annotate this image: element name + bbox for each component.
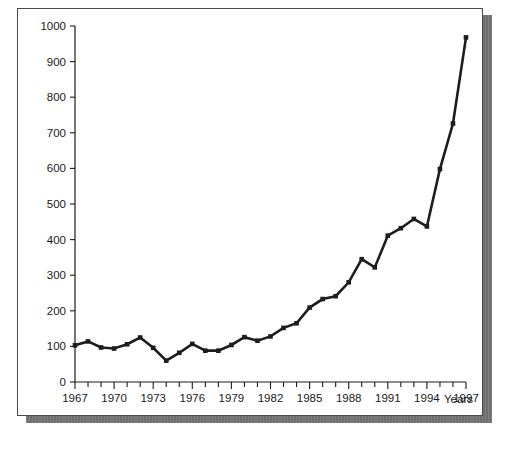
y-axis: 01002003004005006007008009001000 [40, 20, 75, 388]
data-point-marker [255, 338, 260, 343]
data-point-marker [190, 342, 195, 347]
line-chart: 01002003004005006007008009001000 1967197… [17, 8, 483, 416]
x-axis-tick-label: 1967 [62, 392, 88, 404]
data-point-marker [138, 335, 143, 340]
x-axis: 1967197019731976197919821985198819911994… [62, 382, 479, 404]
data-point-marker [346, 280, 351, 285]
y-axis-tick-label: 200 [47, 305, 66, 317]
data-series-line [73, 35, 469, 363]
data-point-marker [464, 35, 469, 40]
data-point-marker [99, 345, 104, 350]
y-axis-tick-label: 700 [47, 127, 66, 139]
data-point-marker [281, 326, 286, 331]
x-axis-tick-label: 1988 [336, 392, 362, 404]
data-point-marker [164, 358, 169, 363]
y-axis-tick-label: 1000 [40, 20, 66, 32]
data-point-marker [242, 335, 247, 340]
data-point-marker [307, 305, 312, 310]
x-axis-tick-label: 1976 [180, 392, 206, 404]
data-point-marker [438, 167, 443, 172]
x-axis-tick-label: 1973 [140, 392, 166, 404]
data-point-marker [333, 294, 338, 299]
data-point-marker [320, 297, 325, 302]
data-point-marker [177, 351, 182, 356]
data-point-marker [216, 348, 221, 353]
x-axis-tick-label: 1985 [297, 392, 323, 404]
data-point-marker [229, 343, 234, 348]
y-axis-tick-label: 900 [47, 56, 66, 68]
data-point-marker [412, 217, 417, 222]
y-axis-tick-label: 400 [47, 234, 66, 246]
data-point-marker [399, 226, 404, 231]
series-polyline [75, 37, 466, 360]
x-axis-tick-label: 1979 [219, 392, 245, 404]
data-point-marker [151, 346, 156, 351]
data-point-marker [451, 121, 456, 126]
data-point-marker [86, 339, 91, 344]
figure-root: 01002003004005006007008009001000 1967197… [0, 0, 507, 452]
data-point-marker [112, 346, 117, 351]
x-axis-tick-label: 1991 [375, 392, 401, 404]
data-point-marker [425, 224, 430, 229]
x-axis-tick-label: 1970 [101, 392, 127, 404]
data-point-marker [125, 342, 130, 347]
x-axis-tick-label: 1994 [414, 392, 440, 404]
y-axis-tick-label: 800 [47, 91, 66, 103]
y-axis-tick-label: 0 [60, 376, 66, 388]
data-point-marker [359, 257, 364, 262]
data-point-marker [73, 343, 78, 348]
y-axis-tick-label: 500 [47, 198, 66, 210]
x-axis-title: Years [444, 393, 473, 405]
data-point-marker [294, 321, 299, 326]
data-point-marker [268, 334, 273, 339]
y-axis-tick-label: 100 [47, 340, 66, 352]
data-point-marker [372, 265, 377, 270]
x-axis-tick-label: 1982 [258, 392, 284, 404]
data-point-marker [203, 348, 208, 353]
y-axis-tick-label: 600 [47, 162, 66, 174]
data-point-marker [386, 233, 391, 238]
y-axis-tick-label: 300 [47, 269, 66, 281]
